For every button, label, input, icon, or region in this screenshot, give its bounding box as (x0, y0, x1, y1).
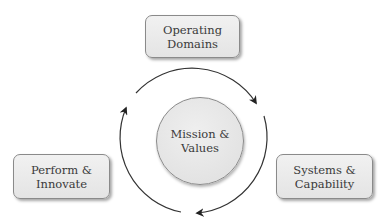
node-label-line1: Systems & (293, 163, 355, 177)
node-label-line1: Operating (163, 23, 222, 37)
node-label-line2: Domains (163, 37, 222, 51)
center-mission-values: Mission & Values (156, 97, 244, 185)
node-label-line2: Innovate (31, 177, 92, 191)
center-label-line2: Values (181, 141, 219, 155)
node-operating-domains: Operating Domains (145, 15, 240, 58)
node-systems-capability: Systems & Capability (276, 154, 373, 199)
cycle-diagram: Operating Domains Systems & Capability P… (0, 0, 388, 224)
node-label-line2: Capability (293, 177, 355, 191)
center-label-line1: Mission & (170, 127, 229, 141)
node-perform-innovate: Perform & Innovate (13, 154, 110, 199)
node-label-line1: Perform & (31, 163, 92, 177)
